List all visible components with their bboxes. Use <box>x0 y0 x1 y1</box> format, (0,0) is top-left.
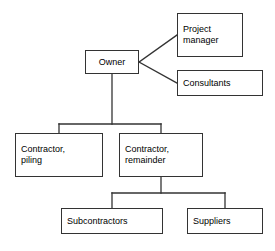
org-chart-diagram: Owner Project manager Consultants Contra… <box>0 0 275 251</box>
node-project-manager[interactable]: Project manager <box>177 13 243 57</box>
edge-owner-project-manager <box>139 35 177 62</box>
node-contractor-remainder[interactable]: Contractor, remainder <box>119 133 203 177</box>
node-suppliers[interactable]: Suppliers <box>187 208 263 234</box>
node-project-manager-label: Project manager <box>178 24 242 46</box>
node-contractor-remainder-label: Contractor, remainder <box>120 144 202 166</box>
node-suppliers-label: Suppliers <box>188 216 262 227</box>
node-consultants-label: Consultants <box>178 78 262 89</box>
node-subcontractors[interactable]: Subcontractors <box>61 208 163 234</box>
node-subcontractors-label: Subcontractors <box>62 216 162 227</box>
node-contractor-piling[interactable]: Contractor, piling <box>15 133 103 177</box>
node-contractor-piling-label: Contractor, piling <box>16 144 102 166</box>
edge-owner-consultants <box>139 62 177 83</box>
node-consultants[interactable]: Consultants <box>177 70 263 96</box>
node-owner[interactable]: Owner <box>85 50 139 74</box>
node-owner-label: Owner <box>86 57 138 68</box>
